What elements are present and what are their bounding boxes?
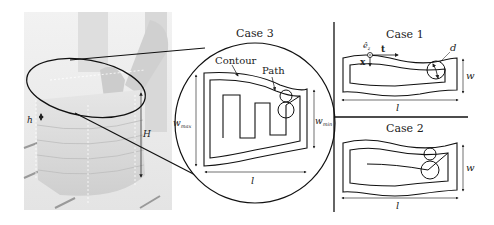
- case1-title: Case 1: [386, 28, 424, 41]
- case1-x-label: x: [360, 57, 366, 67]
- figure-canvas: h H Case 3 Contour Path wmax wmin l: [0, 0, 494, 225]
- case3-contour-label: Contour: [215, 55, 257, 66]
- case1-ez-label: êz: [363, 41, 371, 51]
- case1-l-label: l: [396, 102, 399, 113]
- case2-panel: Case 2 w l: [342, 122, 475, 211]
- case3-title: Case 3: [236, 27, 274, 40]
- label-H: H: [142, 129, 151, 139]
- case2-l-label: l: [396, 200, 399, 211]
- case2-w-label: w: [466, 162, 475, 173]
- case3-panel: Case 3 Contour Path wmax wmin l: [173, 27, 335, 203]
- case1-panel: Case 1 d êz t x w l: [342, 28, 475, 113]
- case3-l-label: l: [251, 175, 254, 186]
- label-h: h: [27, 115, 33, 125]
- photo-panel: h H: [22, 12, 172, 210]
- case2-tool-circle-2: [421, 161, 439, 179]
- case2-fill-path: [367, 164, 428, 170]
- case1-t-label: t: [381, 44, 386, 54]
- case1-inner-contour: [350, 64, 445, 86]
- case2-title: Case 2: [386, 122, 424, 135]
- case1-w-label: w: [466, 70, 475, 81]
- printed-block: [36, 90, 145, 196]
- case1-d-label: d: [450, 42, 456, 53]
- case3-path-label: Path: [262, 65, 285, 76]
- case2-inner-contour: [350, 148, 448, 186]
